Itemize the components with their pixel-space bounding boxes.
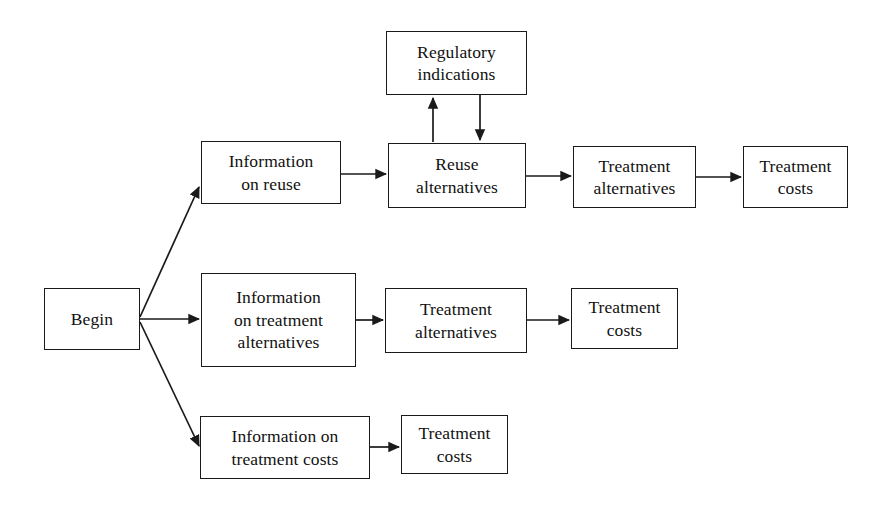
node-reuse-alternatives-label: Reuse alternatives: [416, 153, 498, 198]
node-treatment-alternatives-top-label: Treatment alternatives: [594, 155, 676, 200]
node-regulatory-indications[interactable]: Regulatory indications: [386, 31, 527, 95]
node-treatment-costs-bottom-label: Treatment costs: [418, 422, 490, 467]
node-treatment-alternatives-mid[interactable]: Treatment alternatives: [385, 288, 527, 353]
flowchart-canvas: Begin Information on reuse Regulatory in…: [0, 0, 887, 515]
node-treatment-costs-mid-label: Treatment costs: [588, 296, 660, 341]
node-info-reuse-label: Information on reuse: [229, 150, 314, 195]
node-treatment-costs-mid[interactable]: Treatment costs: [571, 288, 678, 349]
node-info-treatment-costs-label: Information on treatment costs: [232, 425, 339, 470]
node-treatment-costs-bottom[interactable]: Treatment costs: [401, 415, 508, 474]
node-begin-label: Begin: [71, 308, 113, 330]
node-treatment-alternatives-mid-label: Treatment alternatives: [415, 298, 497, 343]
node-info-reuse[interactable]: Information on reuse: [201, 141, 341, 204]
node-reuse-alternatives[interactable]: Reuse alternatives: [388, 143, 526, 208]
node-begin[interactable]: Begin: [44, 288, 140, 350]
edge-begin-to-info-treatment-costs: [140, 322, 199, 446]
node-regulatory-indications-label: Regulatory indications: [417, 41, 496, 86]
node-treatment-costs-top-label: Treatment costs: [759, 155, 831, 200]
edge-begin-to-info-reuse: [140, 187, 199, 317]
node-info-treatment-costs[interactable]: Information on treatment costs: [200, 416, 370, 479]
node-treatment-alternatives-top[interactable]: Treatment alternatives: [573, 146, 696, 208]
node-info-treatment-alternatives-label: Information on treatment alternatives: [234, 286, 323, 353]
node-info-treatment-alternatives[interactable]: Information on treatment alternatives: [201, 273, 356, 367]
node-treatment-costs-top[interactable]: Treatment costs: [743, 146, 848, 208]
